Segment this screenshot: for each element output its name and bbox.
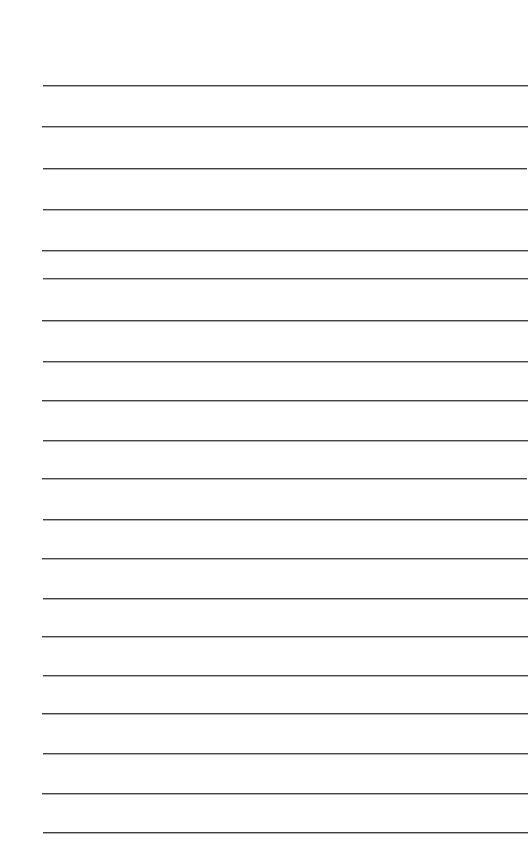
notepad-page [0, 0, 532, 863]
writing-area[interactable] [43, 60, 528, 850]
